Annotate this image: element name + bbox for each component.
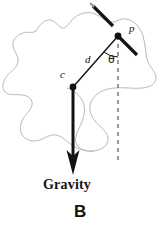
figure-canvas (0, 0, 162, 231)
pivot-point-marker (115, 33, 122, 40)
figure-container: p c d θ Gravity B (0, 0, 162, 231)
angle-theta-label: θ (108, 54, 115, 65)
pivot-point-label: p (129, 23, 135, 34)
distance-label: d (85, 54, 91, 65)
upper-thick-segment (93, 6, 113, 26)
panel-label: B (74, 203, 86, 220)
rigid-body-inner-fold (67, 88, 94, 151)
pivot-thick-segment (120, 38, 137, 55)
center-of-mass-label: c (60, 69, 65, 80)
gravity-caption-label: Gravity (43, 178, 91, 192)
upper-segment-tail-mark (90, 3, 94, 7)
